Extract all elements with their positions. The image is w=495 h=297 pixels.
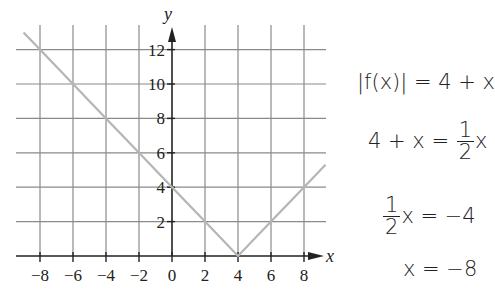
fraction-one-half: 1 2 (457, 120, 474, 163)
x-tick-label: 4 (234, 266, 243, 285)
y-axis-label: y (162, 4, 172, 24)
equation-right: x = −4 (401, 204, 475, 228)
x-tick-label: −2 (130, 266, 148, 285)
x-tick-label: 6 (267, 266, 276, 285)
y-tick-label: 8 (157, 109, 166, 128)
equation-line-1: |f(x)| = 4 + x (357, 70, 495, 94)
equation-text: x = −8 (403, 257, 477, 281)
x-axis-arrow-icon (308, 252, 324, 260)
fraction-numerator: 1 (383, 195, 400, 216)
x-tick-label: 8 (300, 266, 309, 285)
x-tick-label: −8 (31, 266, 49, 285)
y-tick-label: 10 (148, 75, 165, 94)
y-tick-label: 2 (157, 213, 166, 232)
fraction-denominator: 2 (383, 217, 400, 238)
equation-right: x (475, 129, 487, 153)
graph: −8−6−4−20246824681012 y x (0, 0, 360, 297)
y-tick-label: 6 (157, 144, 166, 163)
x-tick-label: 2 (201, 266, 210, 285)
y-tick-label: 12 (148, 41, 165, 60)
x-axis-label: x (325, 246, 334, 266)
y-tick-label: 4 (157, 178, 166, 197)
x-tick-label: 0 (168, 266, 177, 285)
equation-text: |f(x)| = 4 + x (357, 70, 495, 94)
equation-line-2: 4 + x = 1 2 x (368, 120, 488, 163)
function-graph-line (24, 32, 326, 256)
fraction-one-half: 1 2 (383, 195, 400, 238)
axes (16, 27, 324, 262)
x-tick-label: −6 (64, 266, 82, 285)
fraction-numerator: 1 (457, 120, 474, 141)
equation-line-3: 1 2 x = −4 (382, 195, 476, 238)
equation-line-4: x = −8 (403, 257, 477, 281)
x-tick-label: −4 (97, 266, 116, 285)
y-axis-arrow-icon (168, 27, 176, 42)
equation-left: 4 + x = (368, 129, 449, 153)
fraction-denominator: 2 (457, 142, 474, 163)
